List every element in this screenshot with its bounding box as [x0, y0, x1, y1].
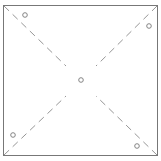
fold-line-bottom-left-to-center [4, 96, 66, 155]
fold-line-bottom-right-to-center [96, 96, 157, 155]
pinwheel-template-diagram [0, 0, 161, 161]
fold-line-top-right-to-center [96, 6, 157, 66]
dashed-fold-lines [4, 6, 157, 155]
bottom-left-hole-icon [11, 133, 16, 138]
top-left-hole-icon [23, 13, 28, 18]
square-border [4, 6, 158, 156]
bottom-right-hole-icon [135, 144, 140, 149]
center-hole-icon [79, 78, 84, 83]
fold-line-top-left-to-center [4, 6, 66, 66]
top-right-hole-icon [147, 24, 152, 29]
